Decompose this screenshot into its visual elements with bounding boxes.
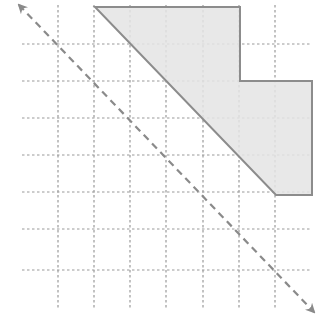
diagram-canvas	[0, 0, 322, 318]
